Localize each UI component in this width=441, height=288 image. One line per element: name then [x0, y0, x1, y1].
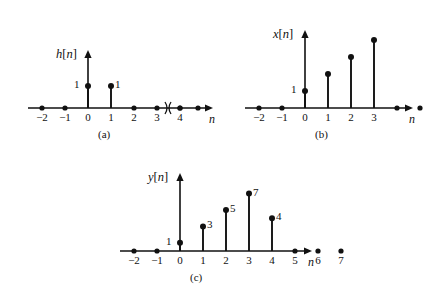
stem-plot-c — [0, 0, 441, 288]
tick-label: 4 — [262, 254, 282, 266]
y-axis-arrow-c — [176, 173, 183, 181]
zero-sample-dot — [338, 248, 343, 253]
panel-caption-c: (c) — [190, 271, 202, 283]
stem-value-label: 4 — [276, 210, 282, 222]
tick-label: 0 — [170, 254, 190, 266]
tick-label: 2 — [216, 254, 236, 266]
tick-label: 5 — [285, 254, 305, 266]
zero-sample-dot — [292, 248, 297, 253]
stem-panel-c: y[n]n−2−10123456713574(c) — [0, 0, 441, 288]
tick-label: 7 — [331, 254, 351, 266]
tick-label: −2 — [124, 254, 144, 266]
stem-dot — [246, 191, 252, 197]
stem-dot — [177, 240, 183, 246]
stem-value-label: 5 — [230, 202, 236, 214]
tick-label: 1 — [193, 254, 213, 266]
zero-sample-dot — [315, 248, 320, 253]
discrete-signal-figure: h[n]n−2−10123411(a)x[n]n−2−101231(b)y[n]… — [0, 0, 441, 288]
tick-label: 3 — [239, 254, 259, 266]
signal-name-c: y[n] — [148, 170, 168, 185]
stem-value-label: 3 — [207, 218, 213, 230]
tick-label: −1 — [147, 254, 167, 266]
stem-value-label: 1 — [166, 235, 172, 247]
stem-dot — [200, 223, 206, 229]
stem-dot — [223, 207, 229, 213]
stem-value-label: 7 — [253, 186, 259, 198]
zero-sample-dot — [131, 248, 136, 253]
stem-dot — [269, 215, 275, 221]
tick-label: 6 — [308, 254, 328, 266]
zero-sample-dot — [154, 248, 159, 253]
